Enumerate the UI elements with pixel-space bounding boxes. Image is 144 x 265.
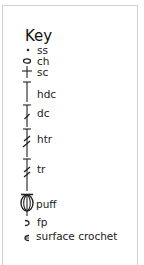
puff-icon: [19, 193, 35, 217]
t-bar-icon: [22, 81, 32, 103]
dot-icon: [26, 47, 32, 53]
key-item-label: tr: [37, 163, 45, 175]
key-item-label: htr: [37, 133, 52, 145]
t-bar-two-slash-long-icon: [22, 158, 34, 192]
surface-crochet-icon: [23, 234, 31, 242]
t-bar-two-slash-icon: [22, 128, 34, 158]
key-item-label: fp: [37, 216, 47, 228]
front-post-icon: [23, 219, 31, 227]
key-item-label: dc: [37, 107, 49, 119]
key-item-label: surface crochet: [36, 230, 117, 242]
plus-icon: [21, 65, 33, 79]
key-item-label: puff: [36, 198, 57, 210]
oval-icon: [22, 57, 32, 65]
key-title: Key: [25, 27, 52, 45]
t-bar-one-slash-icon: [22, 104, 32, 128]
key-item-label: sc: [37, 66, 48, 78]
key-item-label: hdc: [37, 88, 56, 100]
